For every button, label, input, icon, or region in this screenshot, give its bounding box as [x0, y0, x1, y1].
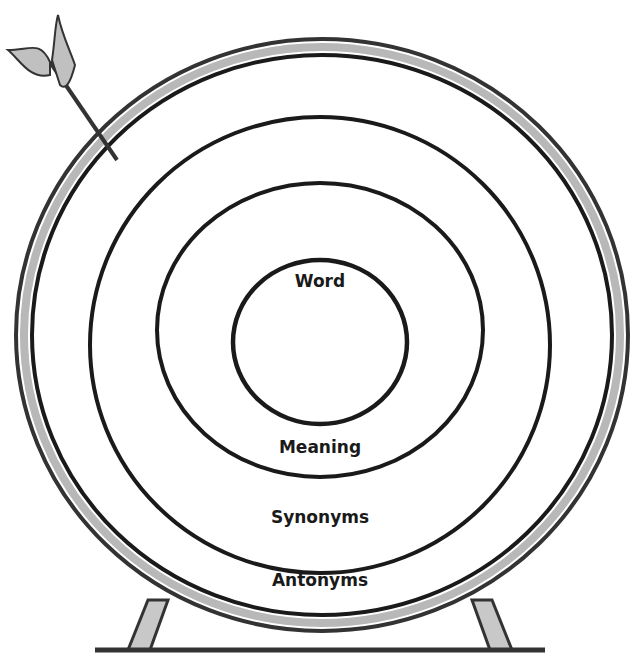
ring-label-word: Word: [220, 271, 420, 291]
target-diagram: [0, 0, 641, 663]
ring-label-antonyms: Antonyms: [220, 570, 420, 590]
ring-label-synonyms: Synonyms: [220, 507, 420, 527]
arrow-icon: [8, 15, 117, 160]
ring-label-meaning: Meaning: [220, 437, 420, 457]
target-rim: [16, 39, 628, 631]
